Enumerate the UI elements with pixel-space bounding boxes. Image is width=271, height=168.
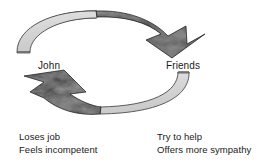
caption-john-line-2: Feels incompetent (19, 144, 97, 157)
arrow-friends-to-john-tail (100, 72, 189, 114)
caption-john: Loses job Feels incompetent (19, 131, 97, 156)
caption-john-line-1: Loses job (19, 131, 97, 144)
cycle-diagram: John Friends Loses job Feels incompetent… (0, 0, 271, 168)
arrow-john-to-friends-head (90, 5, 215, 67)
arrow-john-to-friends-head-outline (96, 11, 205, 58)
caption-friends-line-2: Offers more sympathy (157, 144, 251, 157)
caption-friends-line-1: Try to help (157, 131, 251, 144)
node-label-friends: Friends (166, 60, 200, 72)
arrow-john-tail-body (17, 11, 97, 53)
caption-friends: Try to help Offers more sympathy (157, 131, 251, 156)
node-label-john: John (38, 60, 60, 72)
